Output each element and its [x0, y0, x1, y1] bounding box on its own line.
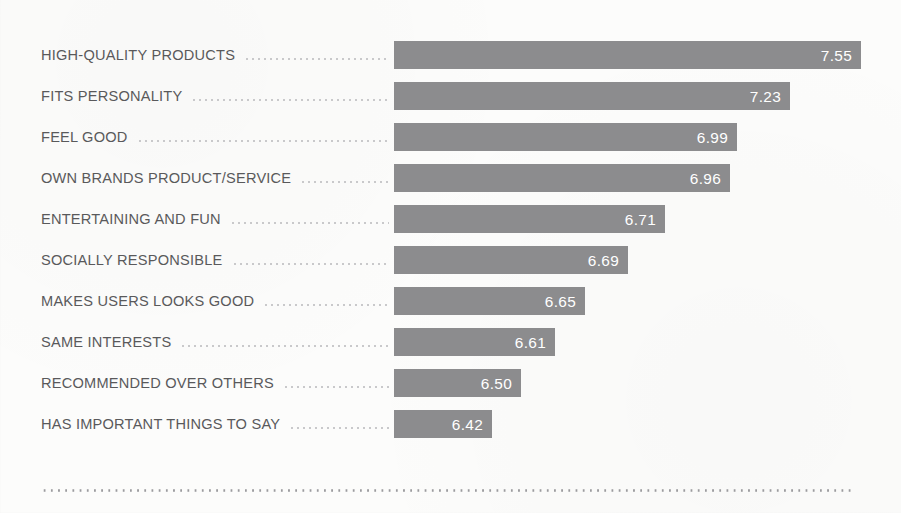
bar-category-label: ENTERTAINING AND FUN: [41, 205, 221, 233]
bar-value-label: 6.65: [545, 287, 576, 315]
bar-category-label: OWN BRANDS PRODUCT/SERVICE: [41, 164, 291, 192]
bar-category-label: RECOMMENDED OVER OTHERS: [41, 369, 274, 397]
bar-chart-page: HIGH-QUALITY PRODUCTS7.55FITS PERSONALIT…: [0, 0, 901, 513]
leader-dots: [283, 369, 389, 397]
bar-row: OWN BRANDS PRODUCT/SERVICE6.96: [0, 164, 901, 192]
bar-value-label: 6.69: [588, 246, 619, 274]
chart-plot-area: HIGH-QUALITY PRODUCTS7.55FITS PERSONALIT…: [0, 0, 901, 513]
bar: 6.99: [394, 123, 737, 151]
bar: 7.55: [394, 41, 861, 69]
bar-value-label: 7.23: [750, 82, 781, 110]
bar-category-label: SAME INTERESTS: [41, 328, 171, 356]
bar-value-label: 7.55: [821, 41, 852, 69]
bar-row: ENTERTAINING AND FUN6.71: [0, 205, 901, 233]
bar-category-label: HIGH-QUALITY PRODUCTS: [41, 41, 235, 69]
bar-row: FITS PERSONALITY7.23: [0, 82, 901, 110]
leader-dots: [300, 164, 389, 192]
bar-category-label: FITS PERSONALITY: [41, 82, 182, 110]
leader-dots: [137, 123, 389, 151]
bar-value-label: 6.50: [481, 369, 512, 397]
bar-value-label: 6.99: [697, 123, 728, 151]
bar-value-label: 6.96: [690, 164, 721, 192]
bar: 7.23: [394, 82, 790, 110]
bar-category-label: MAKES USERS LOOKS GOOD: [41, 287, 254, 315]
bar-row: SAME INTERESTS6.61: [0, 328, 901, 356]
bar-row: SOCIALLY RESPONSIBLE6.69: [0, 246, 901, 274]
bar-category-label: FEEL GOOD: [41, 123, 128, 151]
bar-category-label: SOCIALLY RESPONSIBLE: [41, 246, 223, 274]
bar: 6.42: [394, 410, 492, 438]
bar-row: RECOMMENDED OVER OTHERS6.50: [0, 369, 901, 397]
leader-dots: [289, 410, 389, 438]
bar-row: FEEL GOOD6.99: [0, 123, 901, 151]
leader-dots: [244, 41, 389, 69]
bar: 6.96: [394, 164, 730, 192]
bar: 6.69: [394, 246, 628, 274]
leader-dots: [263, 287, 389, 315]
leader-dots: [230, 205, 389, 233]
bar-row: HAS IMPORTANT THINGS TO SAY6.42: [0, 410, 901, 438]
leader-dots: [232, 246, 390, 274]
bar: 6.50: [394, 369, 521, 397]
bar-value-label: 6.71: [625, 205, 656, 233]
bar: 6.65: [394, 287, 585, 315]
bar: 6.71: [394, 205, 665, 233]
leader-dots: [191, 82, 389, 110]
bar-row: HIGH-QUALITY PRODUCTS7.55: [0, 41, 901, 69]
bar: 6.61: [394, 328, 555, 356]
bar-row: MAKES USERS LOOKS GOOD6.65: [0, 287, 901, 315]
leader-dots: [180, 328, 389, 356]
bar-category-label: HAS IMPORTANT THINGS TO SAY: [41, 410, 280, 438]
baseline-dotted-rule: [41, 489, 852, 492]
bar-value-label: 6.42: [452, 410, 483, 438]
bar-value-label: 6.61: [515, 328, 546, 356]
